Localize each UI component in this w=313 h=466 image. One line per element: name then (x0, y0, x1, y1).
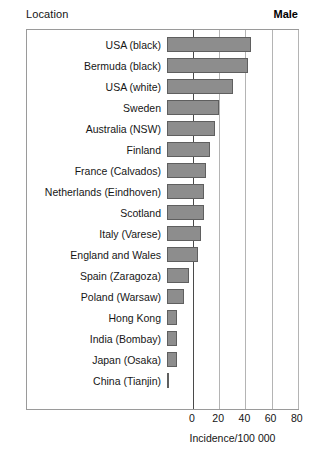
incidence-bar-chart: Location Male USA (black)Bermuda (black)… (0, 0, 313, 466)
bar (167, 331, 177, 346)
bar-row-label: Sweden (27, 102, 167, 114)
x-tick-label: 60 (265, 412, 277, 425)
bar-track (167, 244, 298, 265)
bar (167, 184, 204, 199)
bar-track (167, 328, 298, 349)
bar-row: Poland (Warsaw) (27, 286, 298, 307)
bar-row: Bermuda (black) (27, 55, 298, 76)
bar-track (167, 202, 298, 223)
bar-row: Hong Kong (27, 307, 298, 328)
bar-row-label: USA (white) (27, 81, 167, 93)
bar-row-label: Hong Kong (27, 312, 167, 324)
bar (167, 142, 210, 157)
chart-header: Location Male (26, 7, 298, 27)
bar-row: Japan (Osaka) (27, 349, 298, 370)
x-axis-tick-labels: 020406080100 (166, 412, 299, 428)
bar-track (167, 97, 298, 118)
bar-track (167, 160, 298, 181)
bar-track (167, 139, 298, 160)
bar-row-label: China (Tianjin) (27, 375, 167, 387)
bar-row: Sweden (27, 97, 298, 118)
bar-row: Spain (Zaragoza) (27, 265, 298, 286)
bar-row-label: Japan (Osaka) (27, 354, 167, 366)
bar-track (167, 349, 298, 370)
bar-row-label: Bermuda (black) (27, 60, 167, 72)
bar-row: USA (black) (27, 34, 298, 55)
bar-row-label: India (Bombay) (27, 333, 167, 345)
bar-track (167, 265, 298, 286)
bar (167, 100, 219, 115)
bar-row: Netherlands (Eindhoven) (27, 181, 298, 202)
location-column-header: Location (26, 7, 68, 21)
bar-row-label: Scotland (27, 207, 167, 219)
bar-row-label: USA (black) (27, 39, 167, 51)
bar-row-label: Italy (Varese) (27, 228, 167, 240)
x-tick-label: 0 (189, 412, 195, 425)
bar-rows: USA (black)Bermuda (black)USA (white)Swe… (27, 30, 298, 409)
bar-row: France (Calvados) (27, 160, 298, 181)
x-axis-title: Incidence/100 000 (166, 432, 299, 445)
bar (167, 37, 251, 52)
bar-row: India (Bombay) (27, 328, 298, 349)
bar (167, 163, 206, 178)
bar (167, 268, 189, 283)
bar-row-label: England and Wales (27, 249, 167, 261)
bar-row-label: Australia (NSW) (27, 123, 167, 135)
bar-track (167, 286, 298, 307)
bar-row: Scotland (27, 202, 298, 223)
bar (167, 352, 177, 367)
bar-row: China (Tianjin) (27, 370, 298, 391)
bar-track (167, 118, 298, 139)
bar-row: Australia (NSW) (27, 118, 298, 139)
bar (167, 247, 198, 262)
bar-track (167, 34, 298, 55)
plot-frame: USA (black)Bermuda (black)USA (white)Swe… (26, 29, 299, 410)
x-tick-label: 20 (212, 412, 224, 425)
bar-row: USA (white) (27, 76, 298, 97)
bar-track (167, 181, 298, 202)
bar (167, 226, 201, 241)
bar (167, 289, 184, 304)
series-legend-male: Male (274, 7, 298, 21)
x-axis: 020406080100 Incidence/100 000 (26, 410, 299, 466)
bar-row-label: Spain (Zaragoza) (27, 270, 167, 282)
bar (167, 79, 233, 94)
bar (167, 373, 169, 388)
bar-row-label: Poland (Warsaw) (27, 291, 167, 303)
bar (167, 205, 204, 220)
bar (167, 58, 248, 73)
bar (167, 310, 177, 325)
bar-row: Finland (27, 139, 298, 160)
bar-row: England and Wales (27, 244, 298, 265)
bar-row-label: France (Calvados) (27, 165, 167, 177)
bar-row-label: Netherlands (Eindhoven) (27, 186, 167, 198)
bar-track (167, 307, 298, 328)
bar-track (167, 76, 298, 97)
bar-track (167, 55, 298, 76)
bar-track (167, 370, 298, 391)
x-tick-label: 80 (291, 412, 303, 425)
bar-track (167, 223, 298, 244)
x-tick-label: 40 (239, 412, 251, 425)
bar-row-label: Finland (27, 144, 167, 156)
bar-row: Italy (Varese) (27, 223, 298, 244)
bar (167, 121, 215, 136)
